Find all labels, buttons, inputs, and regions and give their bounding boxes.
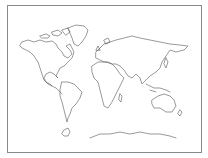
arctic-islands-outline — [40, 28, 70, 38]
antarctica-outline — [90, 132, 176, 138]
southeast-asia-islands-outline — [146, 84, 170, 92]
africa-outline — [92, 62, 124, 108]
new-zealand-outline — [178, 110, 182, 116]
madagascar-outline — [119, 94, 122, 102]
north-america-outline — [20, 40, 74, 86]
japan-outline — [164, 58, 168, 68]
eurasia-outline — [96, 36, 188, 84]
europe-detail-outline — [96, 38, 110, 50]
southern-islands-outline — [62, 128, 70, 136]
greenland-outline — [68, 25, 88, 46]
world-map — [0, 0, 208, 158]
south-america-outline — [60, 82, 82, 122]
australia-outline — [152, 94, 176, 112]
